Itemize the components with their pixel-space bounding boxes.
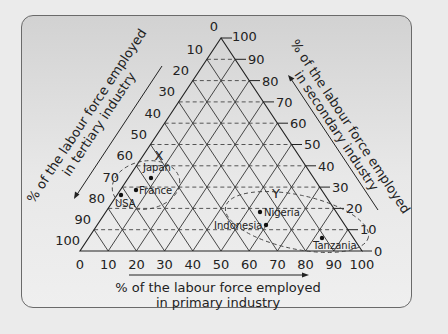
- svg-text:80: 80: [88, 191, 105, 206]
- svg-text:40: 40: [144, 106, 161, 121]
- svg-text:100: 100: [350, 257, 375, 272]
- svg-text:100: 100: [55, 233, 80, 248]
- svg-text:30: 30: [332, 180, 349, 195]
- group-y-label: Y: [271, 186, 280, 201]
- point-japan: [149, 176, 153, 180]
- svg-text:70: 70: [276, 95, 293, 110]
- point-usa: [119, 193, 123, 197]
- point-france: [134, 188, 138, 192]
- svg-text:10: 10: [186, 42, 203, 57]
- svg-text:50: 50: [304, 137, 321, 152]
- svg-text:20: 20: [172, 63, 189, 78]
- ternary-diagram: 0 10 20 30 40 50 60 70 80 90 100 0 10 20…: [0, 0, 448, 334]
- point-indonesia: [264, 223, 268, 227]
- svg-text:0: 0: [76, 257, 84, 272]
- svg-text:90: 90: [248, 52, 265, 67]
- group-x-label: X: [155, 148, 164, 163]
- bottom-axis-ticks: 0 10 20 30 40 50 60 70 80 90 100: [76, 257, 375, 272]
- svg-text:50: 50: [130, 127, 147, 142]
- primary-axis-title-line1: % of the labour force employed: [115, 280, 320, 295]
- svg-text:60: 60: [241, 257, 258, 272]
- svg-text:80: 80: [297, 257, 314, 272]
- label-japan: Japan: [142, 162, 171, 173]
- svg-text:30: 30: [156, 257, 173, 272]
- svg-text:10: 10: [100, 257, 117, 272]
- label-france: France: [139, 185, 172, 196]
- svg-text:60: 60: [290, 116, 307, 131]
- svg-text:40: 40: [318, 159, 335, 174]
- svg-text:70: 70: [269, 257, 286, 272]
- svg-text:0: 0: [374, 244, 382, 259]
- label-nigeria: Nigeria: [264, 207, 300, 218]
- svg-text:80: 80: [262, 74, 279, 89]
- svg-text:60: 60: [116, 148, 133, 163]
- svg-text:20: 20: [346, 201, 363, 216]
- svg-text:30: 30: [158, 84, 175, 99]
- point-nigeria: [258, 210, 262, 214]
- label-tanzania: Tanzania: [312, 240, 357, 251]
- svg-text:10: 10: [360, 222, 377, 237]
- svg-text:70: 70: [102, 170, 119, 185]
- primary-axis-title-line2: in primary industry: [156, 295, 281, 310]
- svg-text:90: 90: [326, 257, 343, 272]
- label-indonesia: Indonesia: [214, 220, 262, 231]
- svg-text:90: 90: [74, 212, 91, 227]
- tertiary-axis-title-line1: % of the labour force employed: [24, 26, 150, 206]
- svg-text:40: 40: [185, 257, 202, 272]
- svg-text:20: 20: [128, 257, 145, 272]
- svg-text:100: 100: [232, 29, 257, 44]
- svg-text:0: 0: [210, 19, 218, 34]
- svg-text:50: 50: [213, 257, 230, 272]
- label-usa: USA: [115, 198, 136, 209]
